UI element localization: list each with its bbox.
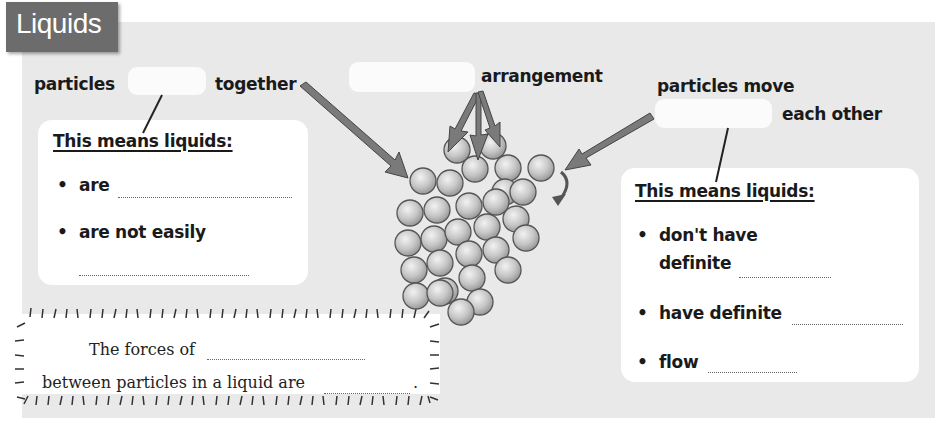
particle-diagram xyxy=(0,0,939,426)
arrow-move-icon xyxy=(565,113,654,170)
connector-line-left xyxy=(143,95,162,133)
curved-arrow-head-icon xyxy=(552,194,566,206)
tick-border-decoration xyxy=(15,308,439,405)
liquid-particles xyxy=(395,133,554,325)
arrow-together-icon xyxy=(300,82,408,178)
curved-move-arrow-icon xyxy=(561,172,567,198)
connector-line-right xyxy=(716,128,728,182)
